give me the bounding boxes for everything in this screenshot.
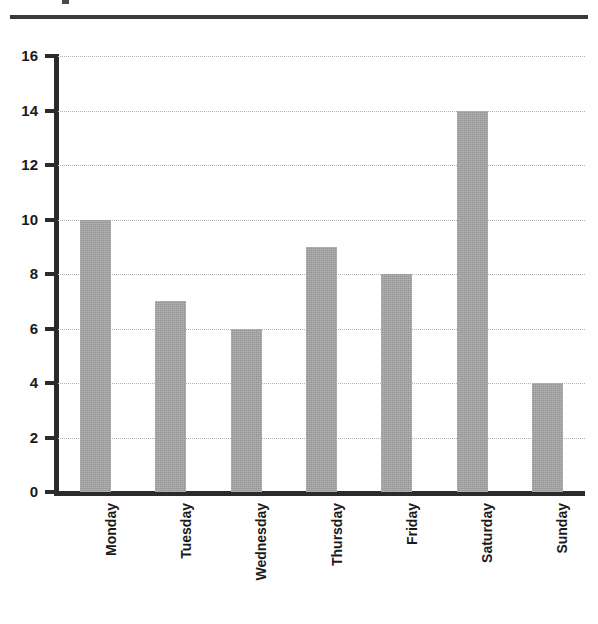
y-axis-tick-label: 14	[8, 103, 38, 118]
bar	[381, 274, 412, 492]
bar	[532, 383, 563, 492]
x-axis-tick-label: Saturday	[479, 503, 495, 563]
bar	[457, 111, 488, 493]
y-axis-tick-mark	[45, 54, 54, 58]
y-axis-tick-label: 8	[8, 266, 38, 281]
y-axis-tick-mark	[45, 436, 54, 440]
y-axis-tick-mark	[45, 272, 54, 276]
y-axis-tick-label: 10	[8, 212, 38, 227]
y-axis-tick-mark	[45, 381, 54, 385]
x-axis-tick-label: Friday	[404, 503, 420, 545]
x-axis-tick-label: Wednesday	[253, 503, 269, 581]
gridline	[58, 165, 585, 166]
y-axis-tick-mark	[45, 109, 54, 113]
bar-chart: 0246810121416MondayTuesdayWednesdayThurs…	[0, 0, 598, 624]
y-axis-tick-mark	[45, 163, 54, 167]
x-axis-tick-label: Tuesday	[178, 503, 194, 559]
y-axis-tick-label: 6	[8, 321, 38, 336]
bar	[155, 301, 186, 492]
y-axis-tick-mark	[45, 327, 54, 331]
y-axis-tick-label: 4	[8, 375, 38, 390]
y-axis-tick-label: 12	[8, 157, 38, 172]
bar	[80, 220, 111, 493]
x-axis-tick-label: Monday	[103, 503, 119, 556]
y-axis-tick-label: 2	[8, 430, 38, 445]
bar	[231, 329, 262, 493]
y-axis-tick-label: 16	[8, 48, 38, 63]
y-axis-tick-mark	[45, 490, 54, 494]
gridline	[58, 111, 585, 112]
y-axis-tick-mark	[45, 218, 54, 222]
x-axis-tick-label: Sunday	[554, 503, 570, 554]
gridline	[58, 220, 585, 221]
plot-area	[58, 56, 585, 492]
x-axis-tick-label: Thursday	[329, 503, 345, 566]
y-axis-tick-label: 0	[8, 484, 38, 499]
gridline	[58, 56, 585, 57]
bar	[306, 247, 337, 492]
